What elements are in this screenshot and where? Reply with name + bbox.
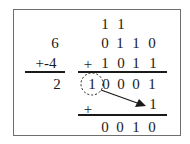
dashed-circle-icon — [81, 73, 103, 95]
arrow-line — [101, 90, 140, 104]
carry-annotation — [0, 0, 190, 144]
